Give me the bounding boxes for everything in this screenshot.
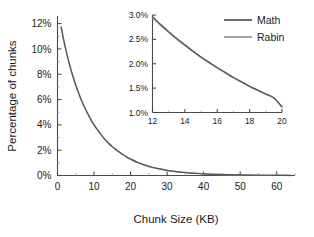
- legend-label-rabin: Rabin: [257, 31, 285, 43]
- legend-label-math: Math: [257, 14, 281, 26]
- x-tick-label: 30: [162, 181, 174, 192]
- y-tick-label: 4%: [37, 119, 52, 130]
- inset-y-tick-label: 2.0%: [129, 59, 149, 69]
- x-tick-label: 10: [88, 181, 100, 192]
- y-tick-label: 2%: [37, 145, 52, 156]
- x-tick-label: 40: [198, 181, 210, 192]
- y-tick-label: 12%: [31, 18, 51, 29]
- y-tick-label: 0%: [37, 170, 52, 181]
- inset-y-tick-label: 1.0%: [129, 108, 149, 118]
- inset-y-tick-label: 2.5%: [129, 34, 149, 44]
- inset-x-tick-label: 20: [277, 116, 287, 126]
- x-axis-title: Chunk Size (KB): [133, 213, 218, 225]
- chart-figure: 0%2%4%6%8%10%12% 0102030405060 Chunk Siz…: [0, 0, 314, 237]
- inset-x-tick-label: 14: [180, 116, 190, 126]
- inset-x-tick-label: 18: [245, 116, 255, 126]
- x-tick-label: 20: [125, 181, 137, 192]
- x-tick-label: 0: [55, 181, 61, 192]
- y-tick-label: 6%: [37, 94, 52, 105]
- inset-y-tick-label: 1.5%: [129, 83, 149, 93]
- inset-x-tick-label: 12: [148, 116, 158, 126]
- x-tick-label: 60: [271, 181, 283, 192]
- y-axis-title: Percentage of chunks: [6, 40, 18, 151]
- inset-y-tick-label: 3.0%: [129, 10, 149, 20]
- y-tick-label: 8%: [37, 69, 52, 80]
- y-tick-label: 10%: [31, 44, 51, 55]
- inset-x-tick-label: 16: [213, 116, 223, 126]
- x-tick-label: 50: [235, 181, 247, 192]
